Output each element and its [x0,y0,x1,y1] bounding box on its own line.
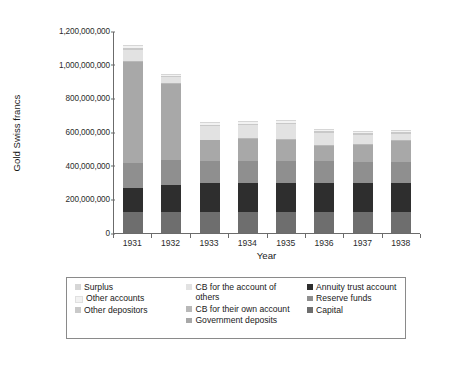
bar-1936 [314,129,334,233]
legend-item[interactable]: Other accounts [75,293,178,303]
legend-label: CB for the account of others [195,282,299,303]
legend-swatch-icon [307,284,313,290]
bar-1934 [238,121,258,233]
stacked-bar-chart: Gold Swiss francs 0200,000,000400,000,00… [0,0,453,372]
legend-label: Surplus [84,282,113,292]
bar-1935 [276,120,296,233]
bar-segment [200,126,220,139]
legend-column: Annuity trust accountReserve fundsCapita… [299,282,405,338]
y-axis-tick-label: 1,200,000,000 [59,27,110,36]
bar-1932 [161,74,181,233]
legend-label: Other accounts [86,293,144,303]
legend-label: Reserve funds [316,293,371,303]
bar-segment [276,183,296,212]
plot-area: 0200,000,000400,000,000600,000,000800,00… [113,32,420,234]
x-axis-tick-label: 1936 [314,234,334,250]
bar-segment [353,135,373,144]
x-axis-title: Year [113,250,420,261]
bar-segment [200,212,220,233]
legend-item[interactable]: CB for the account of others [186,282,299,303]
bar-segment [123,163,143,187]
bar-segment [123,50,143,62]
bar-1933 [200,122,220,233]
bar-segment [391,212,411,233]
bar-segment [238,183,258,212]
legend-label: Annuity trust account [316,282,396,292]
bar-segment [276,140,296,161]
bar-segment [238,125,258,138]
bar-segment [353,183,373,212]
bar-1938 [391,130,411,233]
legend-column: CB for the account of othersCB for their… [178,282,299,338]
bar-segment [276,212,296,233]
bar-segment [161,84,181,160]
bar-1931 [123,45,143,233]
y-axis-title-text: Gold Swiss francs [11,95,22,172]
bar-segment [161,185,181,212]
x-axis-tick-label: 1931 [122,234,142,250]
bar-group [114,32,420,233]
bar-segment [353,145,373,163]
bar-segment [161,212,181,233]
legend-swatch-icon [186,284,192,290]
x-axis-tick-label: 1935 [276,234,296,250]
bar-segment [123,212,143,233]
bar-segment [200,161,220,183]
bar-segment [200,183,220,212]
y-axis-tick-label: 400,000,000 [66,161,110,170]
legend-item[interactable]: Reserve funds [307,293,405,303]
x-axis-tick-label: 1937 [352,234,372,250]
y-axis-tick-label: 800,000,000 [66,94,110,103]
legend-swatch-icon [186,306,192,312]
bar-segment [314,183,334,212]
bar-segment [314,133,334,145]
bar-segment [314,212,334,233]
bar-segment [391,162,411,182]
legend-label: CB for their own account [195,304,289,314]
y-axis-tick-label: 600,000,000 [66,128,110,137]
bar-segment [276,124,296,138]
legend-swatch-icon [307,296,313,302]
legend-label: Capital [316,305,343,315]
y-axis-title: Gold Swiss francs [8,32,24,234]
bar-1937 [353,131,373,233]
x-axis-tick-label: 1938 [391,234,411,250]
legend-item[interactable]: Capital [307,305,405,315]
bar-segment [123,188,143,212]
y-axis-tick-label: 0 [106,229,110,238]
bar-segment [353,212,373,233]
legend-label: Other depositors [84,305,148,315]
bar-segment [200,140,220,160]
legend-item[interactable]: CB for their own account [186,304,299,314]
bar-segment [391,141,411,162]
chart-legend: SurplusOther accountsOther depositorsCB … [66,277,406,339]
legend-column: SurplusOther accountsOther depositors [67,282,178,338]
legend-swatch-icon [186,318,192,324]
bar-segment [238,161,258,183]
bar-segment [238,212,258,233]
bar-segment [353,162,373,182]
legend-label: Government deposits [195,315,277,325]
x-axis-tick-label: 1934 [237,234,257,250]
bar-segment [123,62,143,163]
bar-segment [238,139,258,161]
bar-segment [314,161,334,182]
bar-segment [391,134,411,141]
bar-segment [391,183,411,212]
legend-item[interactable]: Government deposits [186,315,299,325]
legend-swatch-icon [75,284,81,290]
x-axis-tick-labels: 19311932193319341935193619371938 [113,234,420,250]
x-axis-minor-tick [420,234,421,238]
x-axis-tick-label: 1933 [199,234,219,250]
bar-segment [276,161,296,183]
x-axis-tick-label: 1932 [161,234,181,250]
bar-segment [161,160,181,185]
legend-item[interactable]: Surplus [75,282,178,292]
legend-swatch-icon [75,296,83,304]
legend-swatch-icon [75,307,81,313]
y-axis-tick-label: 1,000,000,000 [59,60,110,69]
legend-item[interactable]: Annuity trust account [307,282,405,292]
y-axis-tick-label: 200,000,000 [66,195,110,204]
legend-item[interactable]: Other depositors [75,305,178,315]
legend-swatch-icon [307,307,313,313]
